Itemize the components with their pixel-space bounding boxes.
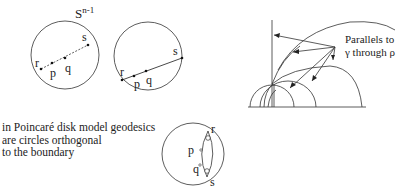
diagram-canvas: r p q s Sn-1 r p q s [0,0,405,188]
caption-line-2: are circles orthogonal [2,134,155,147]
caption-line-3: to the boundary [2,146,155,159]
poincare-disk: r p q s [162,122,224,188]
parallels-label-line2: γ through ρ [344,46,396,58]
sphere-label: Sn-1 [75,5,94,21]
point-label-q: q [146,73,152,87]
point-label-p: p [50,66,56,80]
point-label-p: p [188,143,194,157]
point-label-q: q [193,162,199,176]
point-label-r: r [211,122,215,136]
point-label-s: s [210,175,215,188]
caption: in Poincaré disk model geodesics are cir… [2,121,155,159]
point-label-s: s [82,30,87,44]
point-label-r: r [120,65,124,79]
caption-line-1: in Poincaré disk model geodesics [2,121,155,134]
point-label-r: r [35,56,39,70]
point-label-s: s [173,44,178,58]
parallels-label-line1: Parallels to [345,33,395,45]
disk-dashed-chord: r p q s [31,21,99,89]
disk-solid-chord: r p q s [114,22,183,91]
point-label-q: q [65,61,71,75]
point-label-p: p [134,77,140,91]
